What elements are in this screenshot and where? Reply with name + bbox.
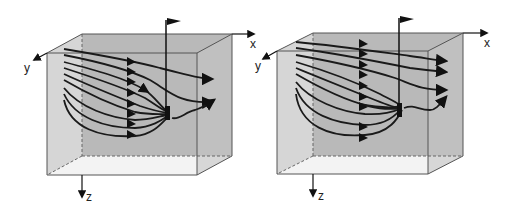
axis-z-label: z bbox=[318, 189, 324, 203]
axis-z-label: z bbox=[86, 190, 92, 204]
box-right-face bbox=[428, 33, 463, 174]
box-left-face bbox=[277, 33, 313, 174]
panel-right: x y z bbox=[255, 16, 490, 203]
axis-y-label: y bbox=[24, 61, 30, 75]
figure: x y z bbox=[0, 0, 516, 215]
box-right-face bbox=[197, 34, 232, 175]
diagram-canvas: x y z bbox=[0, 0, 516, 215]
well-flag bbox=[400, 16, 414, 23]
axis-x-label: x bbox=[250, 37, 256, 51]
well-flag bbox=[167, 18, 181, 25]
axis-y-label: y bbox=[255, 59, 261, 73]
panel-left: x y z bbox=[24, 18, 256, 204]
axis-x-label: x bbox=[484, 36, 490, 50]
